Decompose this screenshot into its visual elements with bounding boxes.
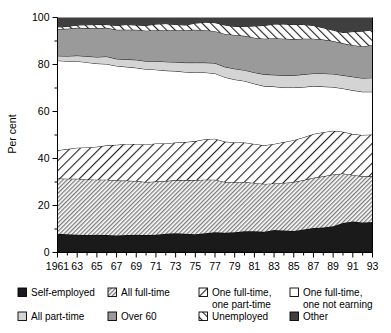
legend-label-line2: one not earning [303, 299, 373, 310]
legend-label: Self-employed [31, 287, 95, 298]
legend-item: All full-time [108, 287, 170, 298]
x-tick-label: 71 [150, 260, 162, 272]
x-tick-label: 65 [91, 260, 103, 272]
y-tick-label: 0 [44, 246, 50, 258]
x-tick-label: 67 [111, 260, 123, 272]
y-tick-label: 20 [38, 199, 50, 211]
legend-swatch-medium-gray [108, 312, 117, 321]
x-tick-label: 69 [130, 260, 142, 272]
stacked-area-bands [58, 18, 373, 253]
x-tick-label: 85 [288, 260, 300, 272]
chart-container: 020406080100 196163656769717375777981838… [0, 0, 391, 333]
legend-swatch-diagonal-hatch [199, 312, 208, 321]
y-axis: 020406080100 [32, 11, 58, 258]
x-tick-label: 83 [268, 260, 280, 272]
legend-item: All part-time [18, 311, 85, 322]
legend-swatch-dark-gray [290, 312, 299, 321]
legend-label: One full-time, [303, 287, 362, 298]
y-tick-label: 60 [38, 105, 50, 117]
y-tick-label: 80 [38, 58, 50, 70]
legend-swatch-light-gray [18, 312, 27, 321]
legend-label: All part-time [31, 311, 85, 322]
x-tick-label: 79 [229, 260, 241, 272]
legend-swatch-solid-black [18, 288, 27, 297]
x-tick-label: 93 [367, 260, 379, 272]
legend-item: Over 60 [108, 311, 157, 322]
legend-item: Self-employed [18, 287, 95, 298]
legend-swatch-wide-diagonal-hatch [199, 288, 208, 297]
legend-swatch-white [290, 288, 299, 297]
x-tick-label: 77 [209, 260, 221, 272]
percent-stacked-area-chart: 020406080100 196163656769717375777981838… [0, 0, 391, 333]
legend-swatch-fine-dense-hatch [108, 288, 117, 297]
y-tick-label: 40 [38, 152, 50, 164]
legend-item: One full-time,one part-time [199, 287, 271, 310]
legend-label: All full-time [121, 287, 170, 298]
legend-label: Other [303, 311, 329, 322]
x-tick-label: 91 [347, 260, 359, 272]
legend-item: Other [290, 311, 329, 322]
x-tick-label: 75 [189, 260, 201, 272]
x-tick-label: 1961 [46, 260, 70, 272]
legend-label-line2: one part-time [212, 299, 271, 310]
y-axis-title: Per cent [6, 114, 18, 153]
x-tick-label: 87 [308, 260, 320, 272]
legend-item: One full-time,one not earning [290, 287, 373, 310]
y-tick-label: 100 [32, 11, 50, 23]
legend-label: One full-time, [212, 287, 271, 298]
x-tick-label: 81 [249, 260, 261, 272]
area-band [58, 174, 373, 236]
legend-item: Unemployed [199, 311, 268, 322]
x-axis: 196163656769717375777981838587899193 [46, 253, 379, 272]
legend-label: Over 60 [121, 311, 157, 322]
legend-label: Unemployed [212, 311, 268, 322]
x-tick-label: 73 [170, 260, 182, 272]
chart-legend: Self-employedAll full-timeOne full-time,… [18, 287, 373, 322]
x-tick-label: 89 [327, 260, 339, 272]
x-tick-label: 63 [71, 260, 83, 272]
